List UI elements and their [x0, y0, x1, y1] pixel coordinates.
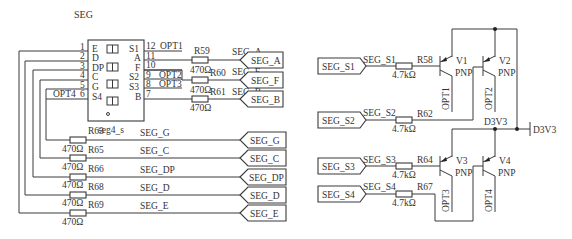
pin-number: 4 — [80, 70, 85, 80]
net-label: OPT4 — [484, 189, 494, 212]
net-label: OPT1 — [441, 87, 451, 110]
resistor-icon — [192, 57, 208, 63]
power-port-d3v3[interactable]: D3V3 — [533, 125, 556, 135]
pin-name: A — [134, 53, 141, 63]
component-title: SEG — [74, 9, 93, 20]
pin-number: 10 — [146, 60, 156, 70]
pin-number: 12 — [146, 41, 156, 51]
ref-label: R62 — [417, 109, 433, 119]
value-label: 470Ω — [62, 162, 83, 172]
type-label: PNP — [498, 68, 515, 78]
value-label: 4.7kΩ — [392, 70, 416, 80]
ref-label: R63 — [88, 126, 104, 136]
port-seg-d[interactable]: SEG_D — [240, 187, 286, 203]
net-label: SEG_S3 — [363, 155, 396, 165]
port-label: SEG_C — [250, 154, 279, 164]
port-label: SEG_S2 — [322, 116, 355, 126]
pin-name: C — [92, 72, 98, 82]
port-seg-f[interactable]: SEG_F — [240, 72, 283, 88]
ref-label: V1 — [456, 56, 468, 66]
pin-name: G — [92, 82, 99, 92]
resistor-icon — [396, 63, 412, 69]
port-label: SEG_G — [250, 136, 280, 146]
value-label: 4.7kΩ — [392, 198, 416, 208]
ref-label: R58 — [417, 55, 433, 65]
net-label: SEG_S4 — [363, 182, 396, 192]
resistor-icon — [396, 117, 412, 123]
pin-name: B — [135, 92, 141, 102]
ref-label: V4 — [499, 156, 511, 166]
value-label: 470Ω — [190, 103, 211, 113]
value-label: 470Ω — [62, 198, 83, 208]
net-label: OPT2 — [484, 87, 494, 110]
port-label: SEG_DP — [249, 173, 284, 183]
resistor-icon — [192, 77, 208, 83]
seg-display-component[interactable]: SEG seg4_s E D DP C G S4 1 2 3 4 5 6 OPT… — [53, 9, 183, 135]
port-label: SEG_S1 — [322, 62, 355, 72]
pin-number: 6 — [80, 89, 85, 99]
type-label: PNP — [455, 168, 472, 178]
ref-label: V3 — [456, 156, 468, 166]
resistor-icon — [70, 155, 86, 161]
pin-name: S4 — [92, 92, 102, 102]
net-label: OPT3 — [441, 189, 451, 212]
ref-label: R59 — [194, 46, 210, 56]
select-line-s1[interactable]: SEG_S1 SEG_S1 R58 4.7kΩ — [318, 55, 440, 80]
net-label: SEG_S1 — [363, 55, 396, 65]
resistor-r69[interactable]: R69 470Ω SEG_E — [62, 200, 240, 227]
ref-label: R64 — [417, 155, 433, 165]
ref-label: R65 — [88, 145, 104, 155]
pin-name: D — [92, 53, 99, 63]
net-label-opt4: OPT4 — [53, 89, 76, 99]
pin-number: 2 — [80, 51, 85, 61]
pin-name: S3 — [129, 82, 139, 92]
ref-label: R61 — [210, 87, 226, 97]
net-label: SEG_C — [140, 146, 169, 156]
port-seg-g[interactable]: SEG_G — [240, 132, 286, 148]
port-label: SEG_E — [250, 209, 279, 219]
transistor-v2[interactable]: V2 PNP OPT2 — [483, 56, 515, 112]
transistor-v3[interactable]: V3 PNP OPT3 — [440, 156, 472, 212]
port-label: SEG_D — [250, 191, 280, 201]
value-label: 4.7kΩ — [392, 170, 416, 180]
value-label: 470Ω — [62, 180, 83, 190]
net-label: SEG_DP — [140, 165, 175, 175]
net-label: SEG_S2 — [363, 108, 396, 118]
ref-label: R67 — [417, 182, 433, 192]
net-label: SEG_G — [140, 128, 170, 138]
resistor-icon — [70, 210, 86, 216]
port-seg-e[interactable]: SEG_E — [240, 205, 286, 221]
transistor-v1[interactable]: V1 PNP OPT1 — [440, 56, 472, 112]
ref-label: R68 — [88, 182, 104, 192]
type-label: PNP — [455, 68, 472, 78]
value-label: 470Ω — [190, 65, 211, 75]
value-label: 470Ω — [190, 85, 211, 95]
ref-label: V2 — [499, 56, 511, 66]
pin-number: 7 — [146, 89, 151, 99]
port-seg-dp[interactable]: SEG_DP — [240, 169, 286, 185]
resistor-icon — [396, 191, 412, 197]
net-label-opt1: OPT1 — [160, 41, 183, 51]
port-label: SEG_S4 — [322, 190, 355, 200]
net-label: SEG_D — [140, 183, 170, 193]
schematic-canvas: SEG seg4_s E D DP C G S4 1 2 3 4 5 6 OPT… — [0, 0, 572, 239]
type-label: PNP — [498, 168, 515, 178]
resistor-icon — [70, 137, 86, 143]
value-label: 4.7kΩ — [392, 124, 416, 134]
port-label: SEG_F — [251, 76, 279, 86]
port-seg-a[interactable]: SEG_A — [240, 52, 283, 68]
ref-label: R69 — [88, 200, 104, 210]
port-seg-c[interactable]: SEG_C — [240, 150, 286, 166]
ref-label: R60 — [210, 68, 226, 78]
port-label: SEG_A — [251, 56, 281, 66]
power-net-label: D3V3 — [484, 117, 507, 127]
value-label: 470Ω — [62, 217, 83, 227]
resistor-icon — [396, 163, 412, 169]
select-line-s3[interactable]: SEG_S3 SEG_S3 R64 4.7kΩ — [318, 155, 440, 180]
port-seg-b[interactable]: SEG_B — [240, 91, 283, 107]
value-label: 470Ω — [62, 144, 83, 154]
net-label: SEG_E — [140, 201, 169, 211]
port-label: SEG_B — [251, 95, 280, 105]
transistor-v4[interactable]: V4 PNP OPT4 — [483, 156, 515, 212]
ref-label: R66 — [88, 164, 104, 174]
